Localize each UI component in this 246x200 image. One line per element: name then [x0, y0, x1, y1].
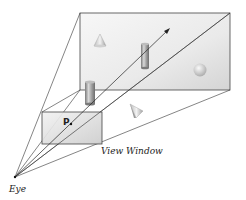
point-p-label: P [63, 117, 70, 127]
point-p-marker [70, 123, 72, 125]
frustum-diagram [0, 0, 246, 200]
eye-label: Eye [9, 184, 26, 194]
sphere-object [194, 64, 207, 77]
far-plane [80, 13, 230, 90]
eye-point [14, 176, 16, 178]
cone-object-near [130, 104, 143, 118]
view-window-label: View Window [101, 146, 163, 156]
cylinder-object-far [141, 43, 149, 70]
view-window [42, 112, 102, 144]
